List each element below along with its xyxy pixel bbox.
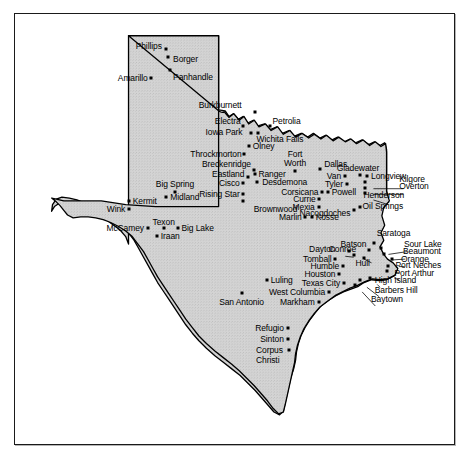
city-label: Dayton xyxy=(309,245,335,254)
city-dot[interactable] xyxy=(255,181,258,184)
city-label: Henderson xyxy=(364,190,405,199)
city-label: Rising Star xyxy=(199,189,239,198)
city-label: Corpus Christi xyxy=(256,346,283,365)
city-label: San Antonio xyxy=(219,297,264,306)
city-dot[interactable] xyxy=(321,190,324,193)
city-dot[interactable] xyxy=(358,279,361,282)
city-dot[interactable] xyxy=(319,168,322,171)
city-label: Iowa Park xyxy=(206,127,243,136)
city-dot[interactable] xyxy=(288,348,291,351)
city-dot[interactable] xyxy=(380,247,383,250)
city-dot[interactable] xyxy=(169,68,172,71)
city-dot[interactable] xyxy=(243,153,246,156)
city-dot[interactable] xyxy=(242,182,245,185)
city-dot[interactable] xyxy=(127,200,130,203)
city-label: Hull xyxy=(355,259,369,268)
city-label: Panhandle xyxy=(173,73,213,82)
city-dot[interactable] xyxy=(164,48,167,51)
texas-landmass-main xyxy=(52,36,398,414)
city-label: Markham xyxy=(280,297,315,306)
city-label: Oil Springs xyxy=(363,201,403,210)
city-dot[interactable] xyxy=(338,272,341,275)
city-dot[interactable] xyxy=(358,173,361,176)
city-dot[interactable] xyxy=(326,190,329,193)
city-dot[interactable] xyxy=(240,292,243,295)
city-dot[interactable] xyxy=(383,252,386,255)
city-dot[interactable] xyxy=(372,241,375,244)
city-dot[interactable] xyxy=(247,175,250,178)
city-dot[interactable] xyxy=(386,265,389,268)
city-dot[interactable] xyxy=(343,174,346,177)
city-dot[interactable] xyxy=(366,174,369,177)
city-dot[interactable] xyxy=(167,55,170,58)
city-dot[interactable] xyxy=(286,338,289,341)
city-dot[interactable] xyxy=(341,265,344,268)
city-dot[interactable] xyxy=(354,283,357,286)
city-dot[interactable] xyxy=(353,253,356,256)
city-dot[interactable] xyxy=(253,173,256,176)
city-dot[interactable] xyxy=(342,281,345,284)
city-label: Midland xyxy=(170,193,199,202)
city-label: Amarillo xyxy=(118,74,148,83)
city-label: Refugio xyxy=(255,324,284,333)
city-label: Nacogdoches xyxy=(300,209,351,218)
city-dot[interactable] xyxy=(317,300,320,303)
city-label: Luling xyxy=(271,276,293,285)
city-label: Kermit xyxy=(133,197,157,206)
city-label: Breckenridge xyxy=(202,159,251,168)
city-dot[interactable] xyxy=(318,198,321,201)
city-dot[interactable] xyxy=(368,249,371,252)
city-dot[interactable] xyxy=(369,277,372,280)
city-dot[interactable] xyxy=(150,77,153,80)
city-dot[interactable] xyxy=(242,200,245,203)
city-label: Phillips xyxy=(136,42,162,51)
city-dot[interactable] xyxy=(294,170,297,173)
texas-map: PhillipsBorgerPanhandleAmarilloBurkburne… xyxy=(15,14,456,446)
city-label: Big Lake xyxy=(182,224,214,233)
city-dot[interactable] xyxy=(286,327,289,330)
city-dot[interactable] xyxy=(248,144,251,147)
city-label: Saratoga xyxy=(377,229,411,238)
city-label: Marlin xyxy=(279,213,302,222)
city-dot[interactable] xyxy=(253,111,256,114)
city-dot[interactable] xyxy=(242,192,245,195)
city-dot[interactable] xyxy=(249,131,252,134)
city-dot[interactable] xyxy=(358,205,361,208)
city-dot[interactable] xyxy=(390,258,393,261)
city-dot[interactable] xyxy=(268,125,271,128)
city-dot[interactable] xyxy=(156,235,159,238)
city-dot[interactable] xyxy=(353,208,356,211)
city-label: Burkburnett xyxy=(199,101,242,110)
city-dot[interactable] xyxy=(327,291,330,294)
city-label: Powell xyxy=(332,187,356,196)
city-dot[interactable] xyxy=(385,269,388,272)
city-dot[interactable] xyxy=(127,207,130,210)
city-dot[interactable] xyxy=(146,226,149,229)
city-label: Cisco xyxy=(219,179,240,188)
city-label: Texon xyxy=(153,217,175,226)
city-dot[interactable] xyxy=(252,169,255,172)
figure-root: PhillipsBorgerPanhandleAmarilloBurkburne… xyxy=(0,0,470,460)
city-label: Olney xyxy=(253,141,275,150)
city-label: McCamey xyxy=(106,223,144,232)
city-label: Sinton xyxy=(260,335,284,344)
city-label: Iraan xyxy=(161,232,180,241)
city-label: Borger xyxy=(173,55,198,64)
city-label: Petrolia xyxy=(273,117,301,126)
city-label: Fort Worth xyxy=(284,149,306,168)
city-dot[interactable] xyxy=(165,196,168,199)
map-frame: PhillipsBorgerPanhandleAmarilloBurkburne… xyxy=(14,13,455,445)
city-dot[interactable] xyxy=(265,279,268,282)
city-label: Baytown xyxy=(371,294,403,303)
city-label: Electra xyxy=(215,117,241,126)
city-label: Big Spring xyxy=(156,180,194,189)
city-dot[interactable] xyxy=(364,181,367,184)
city-label: Wink xyxy=(107,204,126,213)
